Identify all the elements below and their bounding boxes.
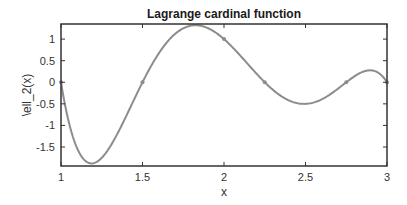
plot-area: 11.522.53 -1.5-1-0.500.51 — [36, 24, 390, 183]
axes-background — [61, 24, 387, 166]
x-tick-label: 1 — [58, 171, 64, 183]
node-marker — [344, 80, 348, 84]
x-tick-label: 2 — [221, 171, 227, 183]
y-tick-label: -1 — [45, 119, 55, 131]
x-tick-label: 2.5 — [298, 171, 313, 183]
y-tick-label: 0 — [49, 76, 55, 88]
x-tick-label: 3 — [384, 171, 390, 183]
y-tick-label: -1.5 — [36, 141, 55, 153]
y-tick-label: 0.5 — [40, 55, 55, 67]
x-tick-label: 1.5 — [135, 171, 150, 183]
node-marker — [263, 80, 267, 84]
y-tick-label: 1 — [49, 33, 55, 45]
y-tick-label: -0.5 — [36, 98, 55, 110]
y-axis-label: \ell_2(x) — [20, 74, 34, 117]
node-marker — [222, 37, 226, 41]
node-marker — [141, 80, 145, 84]
x-axis-label: x — [221, 185, 227, 199]
chart: 11.522.53 -1.5-1-0.500.51 Lagrange cardi… — [0, 0, 407, 205]
chart-title: Lagrange cardinal function — [147, 7, 301, 21]
